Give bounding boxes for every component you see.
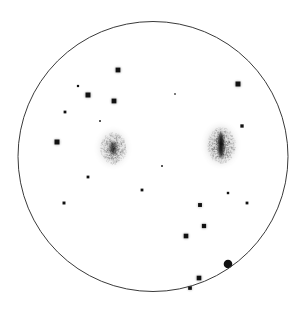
field-of-view-circle: [18, 22, 288, 292]
star-marker: [197, 202, 202, 207]
star-marker: [161, 165, 163, 167]
star-marker: [64, 111, 67, 114]
edge-on-galaxy-right: [207, 127, 236, 164]
star-marker: [115, 67, 122, 74]
deep-sky-object-layer: [100, 127, 236, 165]
star-marker: [99, 120, 101, 122]
star-marker: [201, 223, 207, 229]
star-marker: [54, 139, 61, 146]
eyepiece-sketch-container: [0, 0, 306, 314]
star-marker: [141, 189, 144, 192]
star-marker: [77, 85, 79, 87]
star-marker: [235, 81, 242, 88]
star-marker: [63, 202, 66, 205]
field-of-view-svg: [0, 0, 306, 314]
star-marker: [87, 176, 90, 179]
star-marker: [85, 92, 92, 99]
star-marker: [196, 275, 202, 281]
star-marker: [240, 124, 243, 127]
star-marker: [174, 93, 175, 94]
faint-nebula-left: [100, 132, 127, 165]
star-marker: [227, 192, 229, 194]
star-marker: [183, 233, 189, 239]
star-field-layer: [54, 67, 249, 291]
star-marker: [111, 98, 118, 105]
star-marker: [246, 202, 249, 205]
